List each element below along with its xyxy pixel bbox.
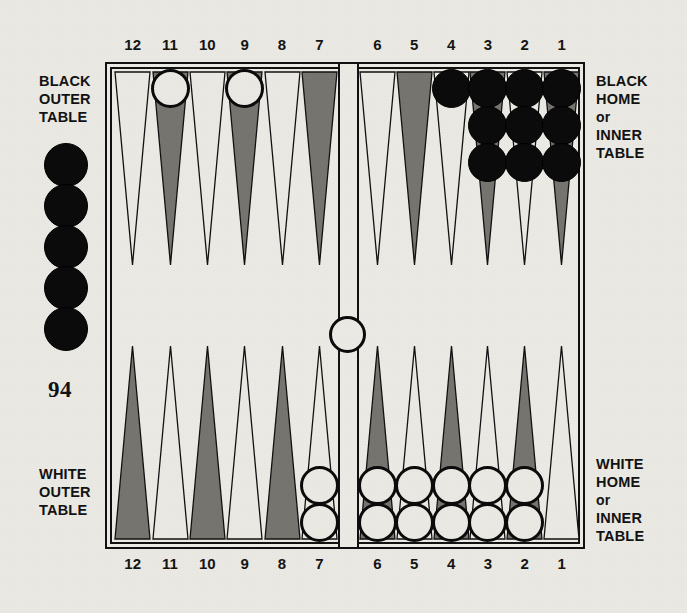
backgammon-diagram-page: 121110987654321 121110987654321 BLACK OU… <box>0 0 687 613</box>
label-line-5: TABLE <box>596 144 682 162</box>
checker-black-point-2[interactable] <box>505 106 544 145</box>
bottom-point-number-8: 8 <box>263 555 301 572</box>
label-white-home-inner-table: WHITE HOME or INNER TABLE <box>596 455 682 545</box>
top-point-number-4: 4 <box>432 36 470 53</box>
bottom-point-number-3: 3 <box>469 555 507 572</box>
point-black-home-inner-table-5[interactable] <box>396 71 433 267</box>
point-white-home-inner-table-1[interactable] <box>543 344 580 540</box>
checker-white-point-2[interactable] <box>505 466 544 505</box>
bottom-point-number-9: 9 <box>226 555 264 572</box>
checker-white-point-2[interactable] <box>505 503 544 542</box>
label-line-2: HOME <box>596 90 682 108</box>
top-point-number-11: 11 <box>151 36 189 53</box>
board-bar <box>338 64 359 547</box>
borne-off-black-checker[interactable] <box>44 266 88 310</box>
top-point-number-8: 8 <box>263 36 301 53</box>
checker-black-point-1[interactable] <box>542 69 581 108</box>
bottom-point-number-7: 7 <box>300 555 338 572</box>
point-white-outer-table-11[interactable] <box>152 344 189 540</box>
label-line-2: OUTER <box>39 90 103 108</box>
label-line-5: TABLE <box>596 527 682 545</box>
label-line-4: INNER <box>596 126 682 144</box>
point-black-outer-table-8[interactable] <box>264 71 301 267</box>
checker-white-point-5[interactable] <box>395 503 434 542</box>
label-line-1: BLACK <box>39 72 103 90</box>
bottom-point-number-11: 11 <box>151 555 189 572</box>
label-line-1: BLACK <box>596 72 682 90</box>
label-line-4: INNER <box>596 509 682 527</box>
checker-white-point-7[interactable] <box>300 466 339 505</box>
label-line-3: or <box>596 491 682 509</box>
label-white-outer-table: WHITE OUTER TABLE <box>39 465 103 519</box>
top-point-number-2: 2 <box>506 36 544 53</box>
label-line-3: TABLE <box>39 501 103 519</box>
label-black-home-inner-table: BLACK HOME or INNER TABLE <box>596 72 682 162</box>
point-white-outer-table-9[interactable] <box>226 344 263 540</box>
borne-off-black-checker[interactable] <box>44 225 88 269</box>
checker-white-point-4[interactable] <box>432 466 471 505</box>
label-line-2: HOME <box>596 473 682 491</box>
checker-white-point-9[interactable] <box>225 69 264 108</box>
checker-white-point-6[interactable] <box>358 466 397 505</box>
top-point-number-3: 3 <box>469 36 507 53</box>
checker-white-point-11[interactable] <box>151 69 190 108</box>
borne-off-black-checker[interactable] <box>44 307 88 351</box>
top-point-number-12: 12 <box>114 36 152 53</box>
label-line-2: OUTER <box>39 483 103 501</box>
point-white-outer-table-12[interactable] <box>114 344 151 540</box>
checker-white-point-4[interactable] <box>432 503 471 542</box>
checker-black-point-1[interactable] <box>542 143 581 182</box>
quadrant-black-outer-table <box>114 71 338 267</box>
bottom-point-number-12: 12 <box>114 555 152 572</box>
bottom-point-number-2: 2 <box>506 555 544 572</box>
borne-off-black-checker[interactable] <box>44 184 88 228</box>
top-point-number-9: 9 <box>226 36 264 53</box>
top-point-number-5: 5 <box>395 36 433 53</box>
point-black-outer-table-10[interactable] <box>189 71 226 267</box>
top-point-number-1: 1 <box>543 36 581 53</box>
bottom-point-number-5: 5 <box>395 555 433 572</box>
page-number: 94 <box>48 377 72 403</box>
bottom-point-number-1: 1 <box>543 555 581 572</box>
label-line-3: or <box>596 108 682 126</box>
checker-black-point-2[interactable] <box>505 69 544 108</box>
label-line-3: TABLE <box>39 108 103 126</box>
point-black-outer-table-12[interactable] <box>114 71 151 267</box>
checker-white-point-6[interactable] <box>358 503 397 542</box>
checker-white-point-5[interactable] <box>395 466 434 505</box>
bottom-point-number-10: 10 <box>188 555 226 572</box>
point-black-home-inner-table-6[interactable] <box>359 71 396 267</box>
checker-white-point-7[interactable] <box>300 503 339 542</box>
checker-black-point-1[interactable] <box>542 106 581 145</box>
checker-black-point-4[interactable] <box>432 69 471 108</box>
label-line-1: WHITE <box>39 465 103 483</box>
top-point-number-7: 7 <box>300 36 338 53</box>
label-line-1: WHITE <box>596 455 682 473</box>
point-white-outer-table-10[interactable] <box>189 344 226 540</box>
bottom-point-number-4: 4 <box>432 555 470 572</box>
bottom-point-number-6: 6 <box>358 555 396 572</box>
label-black-outer-table: BLACK OUTER TABLE <box>39 72 103 126</box>
bar-checker-white[interactable] <box>329 316 366 353</box>
checker-black-point-2[interactable] <box>505 143 544 182</box>
point-white-outer-table-8[interactable] <box>264 344 301 540</box>
point-black-outer-table-7[interactable] <box>301 71 338 267</box>
top-point-number-6: 6 <box>358 36 396 53</box>
borne-off-black-checker[interactable] <box>44 143 88 187</box>
top-point-number-10: 10 <box>188 36 226 53</box>
